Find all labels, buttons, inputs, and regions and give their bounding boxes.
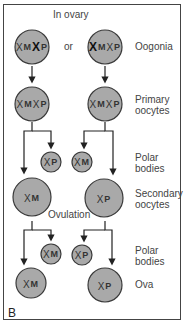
origin-tag: M — [31, 279, 39, 289]
or-connector: or — [64, 41, 73, 52]
ovum-right-chromosomes: XP — [93, 277, 117, 295]
paternal-tag: P — [113, 99, 119, 109]
origin-tag: P — [82, 250, 88, 260]
maternal-tag: M — [98, 42, 106, 52]
x-chromosome: X — [98, 281, 105, 292]
paternal-tag: P — [41, 42, 47, 52]
maternal-tag: M — [24, 42, 32, 52]
origin-tag: P — [105, 281, 111, 291]
ovulation-label: Ovulation — [48, 209, 90, 220]
origin-tag: P — [104, 194, 110, 204]
maternal-tag: M — [97, 99, 105, 109]
oogonia-left-chromosomes: XMXP — [15, 38, 49, 56]
stage-label-polar-bodies-1: Polar bodies — [135, 152, 164, 174]
x-chromosome: X — [44, 157, 51, 168]
x-chromosome: X — [75, 250, 82, 261]
maternal-x: X — [16, 42, 23, 53]
stage-label-oogonia: Oogonia — [135, 41, 173, 52]
x-chromosome: X — [74, 157, 81, 168]
paternal-x-bold: X — [32, 40, 40, 54]
polar-1-right-chromosomes: XM — [72, 153, 92, 171]
maternal-x: X — [17, 99, 24, 110]
x-chromosome: X — [23, 279, 30, 290]
maternal-tag: M — [24, 99, 32, 109]
paternal-x: X — [106, 99, 113, 110]
x-chromosome: X — [43, 249, 50, 260]
paternal-tag: P — [40, 99, 46, 109]
stage-label-ova: Ova — [135, 279, 153, 290]
polar-2-right-chromosomes: XP — [72, 246, 92, 264]
panel-letter: B — [8, 306, 16, 320]
secondary-left-chromosomes: XM — [20, 189, 44, 207]
x-chromosome: X — [24, 193, 31, 204]
paternal-x: X — [106, 42, 113, 53]
primary-left-chromosomes: XMXP — [15, 95, 49, 113]
oogonia-right-chromosomes: XMXP — [88, 38, 122, 56]
in-ovary-title: In ovary — [53, 9, 89, 20]
paternal-x: X — [33, 99, 40, 110]
stage-label-secondary-oocytes: Secondary oocytes — [135, 188, 183, 210]
origin-tag: M — [82, 157, 90, 167]
secondary-right-chromosomes: XP — [92, 190, 116, 208]
stage-label-polar-bodies-2: Polar bodies — [135, 245, 164, 267]
polar-2-left-chromosomes: XM — [41, 245, 61, 263]
stage-label-primary-oocytes: Primary oocytes — [135, 94, 169, 116]
paternal-tag: P — [114, 42, 120, 52]
maternal-x: X — [90, 99, 97, 110]
primary-right-chromosomes: XMXP — [88, 95, 122, 113]
origin-tag: P — [51, 157, 57, 167]
origin-tag: M — [51, 249, 59, 259]
origin-tag: M — [32, 193, 40, 203]
polar-1-left-chromosomes: XP — [41, 153, 61, 171]
maternal-x-bold: X — [89, 40, 97, 54]
ovum-left-chromosomes: XM — [19, 275, 43, 293]
x-chromosome: X — [97, 194, 104, 205]
